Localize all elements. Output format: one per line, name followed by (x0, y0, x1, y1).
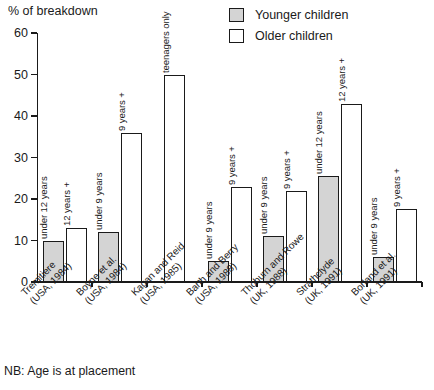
bar-group-borland: under 9 years9 years + (367, 33, 422, 282)
bar-label-boyne-younger: under 9 years (93, 173, 104, 230)
bar-group-tremitiere: under 12 years12 years + (37, 33, 92, 282)
bar-label-thoburn-rowe-older: 9 years + (281, 150, 292, 189)
y-tick-label-30: 30 (14, 151, 28, 165)
bar-chart: % of breakdown Younger children Older ch… (0, 0, 434, 390)
bar-label-barth-berry-older: 9 years + (226, 146, 237, 185)
legend-label-younger: Younger children (255, 8, 348, 22)
bar-strathclyde-older: 12 years + (341, 104, 362, 282)
legend-item-younger: Younger children (229, 8, 348, 22)
x-tick-borland (421, 282, 422, 287)
y-axis-title: % of breakdown (8, 4, 98, 18)
bar-group-boyne: under 9 years9 years + (92, 33, 147, 282)
bar-label-kagan-reid-older: teenagers only (160, 11, 171, 73)
bar-label-strathclyde-older: 12 years + (336, 57, 347, 101)
bar-group-strathclyde: under 12 years12 years + (312, 33, 367, 282)
bar-label-tremitiere-older: 12 years + (61, 182, 72, 226)
bar-label-barth-berry-younger: under 9 years (203, 202, 214, 259)
y-tick-label-10: 10 (14, 234, 28, 248)
y-tick-label-40: 40 (14, 109, 28, 123)
bar-label-borland-younger: under 9 years (368, 198, 379, 255)
legend-swatch-younger (229, 8, 244, 22)
y-tick-label-20: 20 (14, 192, 28, 206)
y-tick-label-50: 50 (14, 68, 28, 82)
bar-label-borland-older: 9 years + (391, 169, 402, 208)
bar-label-tremitiere-younger: under 12 years (38, 176, 49, 239)
chart-footnote: NB: Age is at placement (4, 364, 135, 378)
bar-label-boyne-older: 9 years + (116, 92, 127, 131)
bar-label-thoburn-rowe-younger: under 9 years (258, 177, 269, 234)
y-tick-label-60: 60 (14, 26, 28, 40)
bar-boyne-older: 9 years + (121, 133, 142, 282)
bar-label-strathclyde-younger: under 12 years (313, 112, 324, 175)
